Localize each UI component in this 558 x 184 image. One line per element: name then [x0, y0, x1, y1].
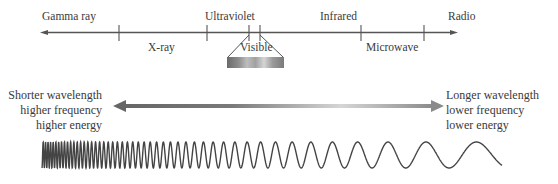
note-line: lower frequency [446, 103, 539, 118]
band-label-radio: Radio [448, 10, 475, 22]
band-label-visible: Visible [240, 41, 273, 53]
note-line: Longer wavelength [446, 88, 539, 103]
band-label-gamma-ray: Gamma ray [42, 10, 96, 22]
electromagnetic-wave [42, 142, 502, 168]
short-wavelength-note: Shorter wavelength higher frequency high… [8, 88, 102, 133]
note-line: lower energy [446, 118, 539, 133]
wavelength-arrow [113, 100, 444, 112]
note-line: higher energy [8, 118, 102, 133]
band-label-microwave: Microwave [366, 41, 418, 53]
long-wavelength-note: Longer wavelength lower frequency lower … [446, 88, 539, 133]
note-line: higher frequency [8, 103, 102, 118]
band-label-infrared: Infrared [320, 10, 357, 22]
band-label-ultraviolet: Ultraviolet [205, 10, 255, 22]
note-line: Shorter wavelength [8, 88, 102, 103]
band-label-x-ray: X-ray [148, 41, 175, 53]
visible-spectrum-bar [227, 57, 284, 68]
